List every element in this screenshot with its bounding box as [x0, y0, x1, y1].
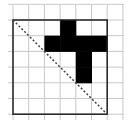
filled-shape — [44, 20, 107, 83]
grid-diagram — [0, 0, 128, 125]
